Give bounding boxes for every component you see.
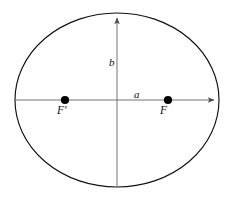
focus-label-left: F' — [57, 105, 66, 117]
focus-label-right: F — [160, 105, 167, 117]
focus-point-left — [61, 96, 69, 104]
focus-point-right — [164, 96, 172, 104]
ellipse-diagram-canvas — [0, 0, 229, 200]
semi-major-axis-label: a — [134, 89, 140, 100]
ellipse-diagram-figure: a b F' F — [0, 0, 229, 200]
semi-minor-axis-label: b — [109, 57, 115, 68]
